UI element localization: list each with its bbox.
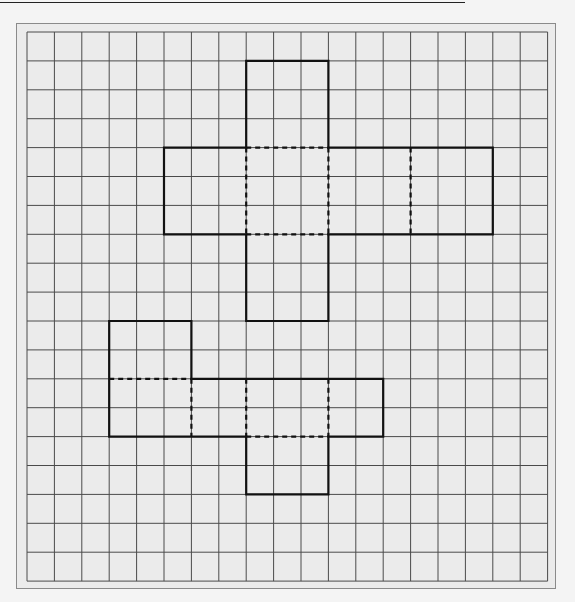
grid-area — [27, 32, 548, 581]
graph-paper-grid — [0, 0, 575, 602]
grid-lines — [27, 32, 548, 581]
